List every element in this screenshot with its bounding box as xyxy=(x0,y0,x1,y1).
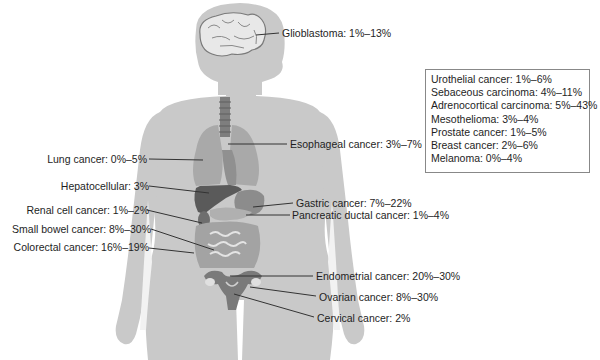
label-colorectal: Colorectal cancer: 16%–19% xyxy=(14,241,149,253)
label-pancreatic: Pancreatic ductal cancer: 1%–4% xyxy=(292,209,449,221)
label-renal: Renal cell cancer: 1%–2% xyxy=(26,204,149,216)
trachea-icon xyxy=(219,97,231,137)
legend-item-melanoma: Melanoma: 0%–4% xyxy=(431,152,589,165)
legend-item-prostate: Prostate cancer: 1%–5% xyxy=(431,126,589,139)
legend-item-mesothelioma: Mesothelioma: 3%–4% xyxy=(431,113,589,126)
intestines-icon xyxy=(195,222,261,269)
label-gastric: Gastric cancer: 7%–22% xyxy=(296,197,412,209)
label-lung: Lung cancer: 0%–5% xyxy=(47,153,147,165)
label-hepatocellular: Hepatocellular: 3% xyxy=(61,180,149,192)
label-esophageal: Esophageal cancer: 3%–7% xyxy=(290,138,422,150)
legend-item-urothelial: Urothelial cancer: 1%–6% xyxy=(431,73,589,86)
label-cervical: Cervical cancer: 2% xyxy=(317,312,410,324)
brain-icon xyxy=(200,13,266,56)
label-ovarian: Ovarian cancer: 8%–30% xyxy=(319,291,438,303)
label-small-bowel: Small bowel cancer: 8%–30% xyxy=(12,223,151,235)
legend-item-adrenocortical: Adrenocortical carcinoma: 5%–43% xyxy=(431,99,589,112)
label-glioblastoma: Glioblastoma: 1%–13% xyxy=(282,27,391,39)
legend-item-sebaceous: Sebaceous carcinoma: 4%–11% xyxy=(431,86,589,99)
other-cancers-legend: Urothelial cancer: 1%–6% Sebaceous carci… xyxy=(425,69,590,173)
legend-item-breast: Breast cancer: 2%–6% xyxy=(431,139,589,152)
label-endometrial: Endometrial cancer: 20%–30% xyxy=(316,270,460,282)
